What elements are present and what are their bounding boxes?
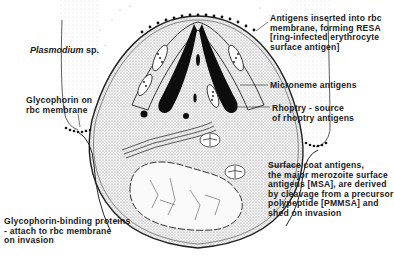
label-glycophorin-binding: Glycophorin-binding proteins - attach to…: [4, 217, 130, 246]
label-microneme: Microneme antigens: [270, 81, 357, 91]
label-glycophorin: Glycophorin on rbc membrane: [26, 96, 92, 115]
organism-suffix: sp.: [86, 45, 99, 55]
label-resa: Antigens inserted into rbc membrane, for…: [270, 14, 382, 52]
organism-genus: Plasmodium: [30, 45, 84, 55]
label-surface-coat: Surface coat antigens, the major merozoi…: [268, 161, 394, 219]
organism-title: Plasmodium sp.: [30, 45, 99, 55]
label-rhoptry: Rhoptry - source of rhoptry antigens: [272, 104, 354, 123]
